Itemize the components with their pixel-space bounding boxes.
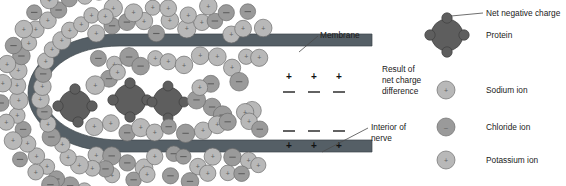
ion-symbol: + — [38, 96, 42, 103]
ion-positive: + — [77, 0, 92, 4]
ion-symbol: + — [50, 46, 54, 53]
ion-symbol: + — [198, 84, 202, 91]
ion-symbol: + — [66, 154, 70, 161]
ion-positive: + — [220, 165, 236, 181]
ion-symbol: + — [198, 52, 202, 59]
ion-positive: + — [254, 19, 272, 37]
charge-plus: + — [311, 140, 317, 151]
ion-negative — [162, 168, 178, 184]
ion-circle-icon: – — [437, 118, 455, 136]
ion-symbol: + — [46, 17, 50, 24]
ion-positive: + — [200, 165, 216, 181]
ion-symbol: + — [111, 5, 115, 12]
ion-symbol: + — [16, 67, 20, 74]
ion-symbol: + — [34, 26, 38, 33]
ion-positive: + — [4, 132, 22, 150]
protein-shape — [147, 81, 189, 123]
ion-symbol: + — [256, 162, 260, 169]
charge-plus: + — [286, 71, 292, 82]
legend-label-sodium: Sodium ion — [486, 85, 528, 95]
ion-symbol: + — [206, 3, 210, 10]
ion-symbol: + — [94, 152, 98, 159]
result-label-line-2: net charge — [382, 75, 422, 85]
ion-symbol: + — [153, 55, 157, 62]
legend-item-potassium: + Potassium ion — [437, 151, 538, 169]
ion-symbol: + — [44, 58, 48, 65]
ion-symbol: + — [45, 163, 49, 170]
ion-symbol: + — [15, 112, 19, 119]
ion-symbol: + — [257, 54, 261, 61]
ion-negative — [224, 148, 242, 166]
ion-symbol: + — [444, 157, 448, 164]
legend-label-protein: Protein — [486, 30, 513, 40]
ion-positive: + — [175, 56, 193, 74]
ion-symbol: + — [142, 18, 146, 25]
ion-symbol: + — [201, 127, 205, 134]
ion-symbol: + — [168, 17, 172, 24]
ion-symbol: + — [47, 0, 51, 4]
ion-negative — [252, 121, 268, 137]
ion-symbol: + — [115, 69, 119, 76]
ion-negative — [90, 50, 106, 66]
diagram-canvas: ++++++++++++++++++++++++++++++++++++++++… — [0, 0, 566, 186]
ion-negative — [5, 37, 22, 54]
ion-symbol: + — [244, 53, 248, 60]
ion-positive: + — [145, 0, 160, 15]
ion-symbol: + — [17, 97, 21, 104]
ion-positive: + — [146, 124, 163, 141]
ion-symbol: + — [226, 170, 230, 177]
ion-symbol: + — [241, 25, 245, 32]
ion-symbol: + — [60, 141, 64, 148]
callout-result-of-net-charge-difference: Result of net charge difference — [382, 64, 422, 96]
ion-positive: + — [139, 167, 155, 183]
ion-symbol: + — [151, 4, 155, 11]
result-label-line-1: Result of — [382, 64, 415, 74]
ion-negative — [219, 113, 236, 130]
legend-label-potassium: Potassium ion — [486, 155, 538, 165]
ion-symbol: + — [166, 58, 170, 65]
ion-symbol: + — [90, 165, 94, 172]
ion-symbol: + — [93, 82, 97, 89]
charge-plus: + — [336, 71, 342, 82]
ion-positive: + — [110, 64, 126, 80]
ion-positive: + — [0, 114, 14, 130]
ion-symbol: + — [215, 53, 219, 60]
ion-symbol: + — [15, 82, 19, 89]
ion-symbol: + — [68, 27, 72, 34]
ion-positive: + — [86, 118, 104, 136]
ion-symbol: + — [211, 153, 215, 160]
net-negative-charge-leader-line — [451, 13, 483, 16]
outer-band-charges: + + + — [283, 71, 345, 92]
ion-positive: + — [208, 48, 226, 66]
legend-item-sodium: + Sodium ion — [437, 81, 528, 99]
legend-item-chloride: – Chloride ion — [437, 118, 531, 136]
ion-symbol: + — [139, 124, 143, 131]
ion-negative — [218, 5, 234, 21]
membrane-label: Membrane — [320, 30, 360, 40]
ion-symbol: + — [5, 61, 9, 68]
ion-positive: + — [160, 54, 176, 70]
ion-negative — [176, 149, 191, 164]
ion-symbol: + — [153, 129, 157, 136]
result-label-line-3: difference — [382, 86, 419, 96]
ion-symbol: + — [132, 9, 136, 16]
ion-negative — [13, 152, 28, 167]
ion-positive: + — [28, 164, 44, 180]
ion-negative — [132, 57, 150, 75]
net-negative-charge-lobe — [442, 13, 452, 23]
ion-symbol: + — [90, 12, 94, 19]
protein-lobed-circle-icon — [425, 13, 469, 57]
ion-symbol: + — [182, 62, 186, 69]
ion-positive: + — [15, 20, 33, 38]
ion-positive: + — [251, 158, 266, 173]
ion-symbol: + — [103, 13, 107, 20]
ion-symbol: + — [4, 119, 8, 126]
ion-symbol: + — [22, 26, 26, 33]
ion-symbol: + — [444, 87, 448, 94]
ion-negative — [0, 95, 9, 112]
ion-positive: + — [86, 76, 105, 95]
legend-item-protein: Net negative charge Protein — [425, 8, 561, 57]
ion-positive: + — [98, 9, 114, 25]
legend-label-chloride: Chloride ion — [486, 122, 531, 132]
ion-negative — [176, 124, 194, 142]
